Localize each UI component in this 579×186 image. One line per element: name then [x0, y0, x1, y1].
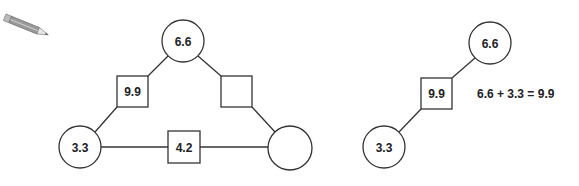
equation-text: 6.6 + 3.3 = 9.9: [477, 87, 555, 101]
right-circle-top: 6.6: [469, 22, 511, 64]
svg-text:3.3: 3.3: [72, 141, 89, 155]
svg-text:9.9: 9.9: [428, 87, 445, 101]
svg-text:6.6: 6.6: [482, 37, 499, 51]
left-circle-bottom-right: [268, 126, 312, 170]
svg-text:3.3: 3.3: [376, 141, 393, 155]
left-square-left-edge: 9.9: [117, 76, 148, 107]
left-circle-bottom-left: 3.3: [59, 126, 101, 168]
diagram-canvas: 9.9 4.2 6.6 3.3 9.9 6.6 3.3 6.6 + 3.3: [0, 0, 579, 186]
right-circle-bottom: 3.3: [363, 126, 405, 168]
svg-text:4.2: 4.2: [176, 141, 193, 155]
svg-text:6.6: 6.6: [175, 35, 192, 49]
left-circle-top: 6.6: [162, 20, 204, 62]
left-square-bottom-edge: 4.2: [168, 131, 200, 163]
svg-text:9.9: 9.9: [124, 85, 141, 99]
left-square-right-edge: [221, 76, 252, 107]
pencil-icon: [3, 14, 49, 38]
right-square-edge: 9.9: [421, 78, 452, 109]
